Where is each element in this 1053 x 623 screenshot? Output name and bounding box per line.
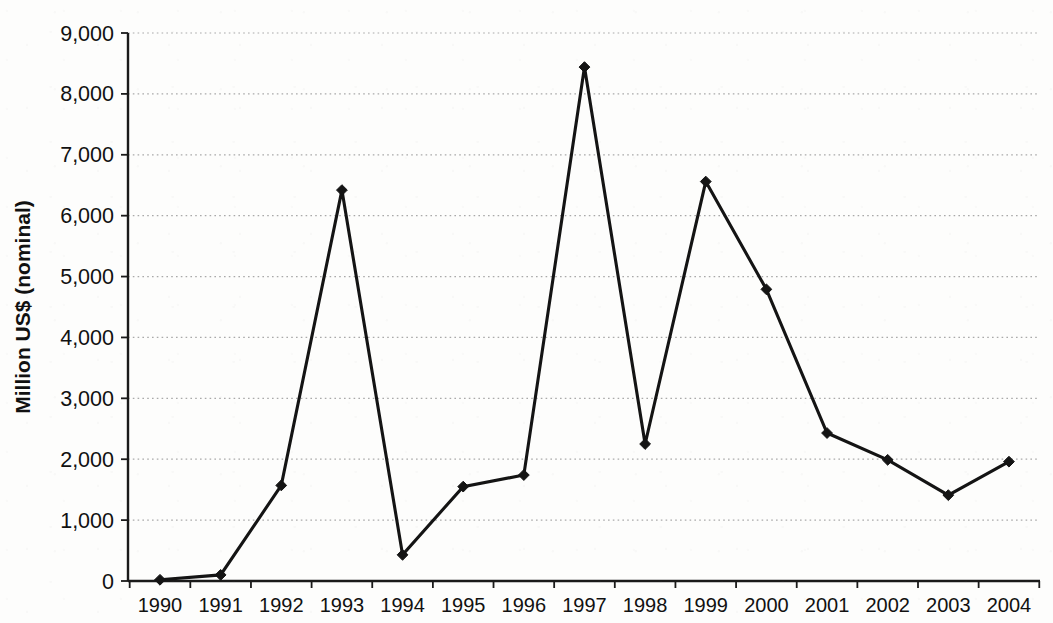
y-tick-label: 7,000 — [60, 143, 114, 167]
y-axis-title: Million US$ (nominal) — [11, 200, 34, 414]
data-point-marker — [337, 185, 348, 196]
x-tick-label: 1998 — [623, 594, 668, 616]
y-tick-label: 1,000 — [60, 509, 114, 533]
x-tick-label: 2003 — [926, 594, 971, 616]
x-tick-label: 1996 — [502, 594, 547, 616]
y-tick-label: 0 — [102, 570, 114, 594]
x-axis-tick-labels: 1990199119921993199419951996199719981999… — [138, 594, 1031, 616]
y-tick-label: 8,000 — [60, 82, 114, 106]
data-point-marker — [822, 428, 833, 439]
y-tick-label: 5,000 — [60, 265, 114, 289]
x-tick-label: 1997 — [562, 594, 607, 616]
x-tick-label: 1999 — [684, 594, 729, 616]
x-tick-label: 1995 — [441, 594, 486, 616]
axis-tick-marks — [121, 33, 1039, 588]
x-tick-label: 1993 — [320, 594, 365, 616]
y-tick-label: 4,000 — [60, 326, 114, 350]
x-tick-label: 1991 — [198, 594, 243, 616]
data-point-marker — [640, 439, 651, 450]
x-tick-label: 2002 — [865, 594, 910, 616]
data-point-markers — [155, 62, 1015, 585]
x-tick-label: 2000 — [744, 594, 789, 616]
chart-container: 01,0002,0003,0004,0005,0006,0007,0008,00… — [0, 0, 1053, 623]
x-tick-label: 2004 — [987, 594, 1032, 616]
data-point-marker — [518, 470, 529, 481]
data-point-marker — [155, 574, 166, 585]
y-tick-label: 9,000 — [60, 22, 114, 46]
x-tick-label: 1994 — [380, 594, 425, 616]
line-chart: 01,0002,0003,0004,0005,0006,0007,0008,00… — [0, 0, 1053, 623]
data-point-marker — [579, 62, 590, 73]
gridlines — [128, 33, 1040, 520]
y-tick-label: 3,000 — [60, 387, 114, 411]
x-tick-label: 1992 — [259, 594, 304, 616]
y-tick-label: 6,000 — [60, 204, 114, 228]
y-tick-label: 2,000 — [60, 448, 114, 472]
x-tick-label: 2001 — [805, 594, 850, 616]
x-tick-label: 1990 — [138, 594, 183, 616]
data-series-line — [160, 67, 1009, 580]
y-axis-tick-labels: 01,0002,0003,0004,0005,0006,0007,0008,00… — [60, 22, 114, 594]
